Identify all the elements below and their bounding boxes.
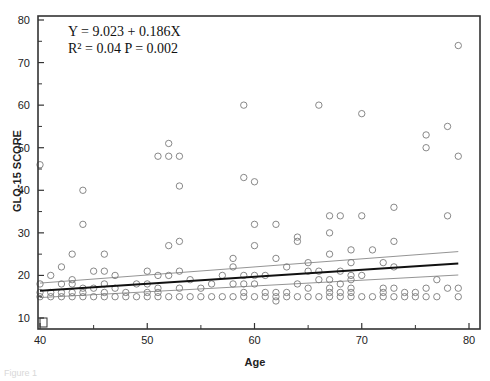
x-axis-title: Age <box>245 356 266 368</box>
data-point <box>444 213 450 219</box>
data-point <box>198 294 204 300</box>
data-point <box>348 294 354 300</box>
data-point <box>230 281 236 287</box>
data-point <box>369 247 375 253</box>
data-point <box>380 259 386 265</box>
data-point <box>241 174 247 180</box>
data-point <box>155 294 161 300</box>
data-point <box>305 285 311 291</box>
data-point <box>348 259 354 265</box>
y-tick-label: 10 <box>18 312 30 324</box>
data-point <box>101 251 107 257</box>
data-point <box>423 145 429 151</box>
data-point <box>80 221 86 227</box>
y-tick-label: 70 <box>18 57 30 69</box>
data-point <box>348 276 354 282</box>
data-point <box>187 294 193 300</box>
data-point <box>133 294 139 300</box>
data-point <box>176 294 182 300</box>
data-point <box>58 264 64 270</box>
data-point <box>166 140 172 146</box>
data-point <box>230 294 236 300</box>
data-point <box>208 281 214 287</box>
data-point <box>444 123 450 129</box>
data-point <box>391 294 397 300</box>
data-point <box>208 294 214 300</box>
data-point <box>262 294 268 300</box>
data-point <box>391 238 397 244</box>
data-point <box>251 179 257 185</box>
data-point <box>230 264 236 270</box>
data-point <box>326 251 332 257</box>
data-point <box>155 153 161 159</box>
data-point <box>423 285 429 291</box>
data-point <box>434 276 440 282</box>
data-point <box>241 102 247 108</box>
y-tick-label: 80 <box>18 14 30 26</box>
data-point <box>412 294 418 300</box>
data-point <box>123 294 129 300</box>
data-point <box>273 298 279 304</box>
scatter-chart: 1020304050607080 4050607080 Y = 9.023 + … <box>0 0 490 381</box>
data-point <box>294 238 300 244</box>
data-point <box>166 294 172 300</box>
x-axis-ticks: 4050607080 <box>34 323 475 346</box>
data-point <box>359 294 365 300</box>
data-point <box>316 102 322 108</box>
data-point <box>359 272 365 278</box>
y-tick-label: 60 <box>18 99 30 111</box>
data-point <box>348 247 354 253</box>
data-point <box>251 294 257 300</box>
data-point <box>359 213 365 219</box>
data-point <box>219 294 225 300</box>
plot-frame <box>38 16 480 329</box>
data-point <box>176 153 182 159</box>
data-point <box>219 272 225 278</box>
data-point <box>112 294 118 300</box>
data-point <box>101 268 107 274</box>
data-point <box>326 213 332 219</box>
data-point <box>273 255 279 261</box>
regression-stats: R² = 0.04 P = 0.002 <box>68 41 178 56</box>
data-point <box>423 132 429 138</box>
data-point <box>455 153 461 159</box>
y-axis-title: GLQ-15 SCORE <box>11 130 23 212</box>
data-point <box>401 294 407 300</box>
data-point <box>69 294 75 300</box>
data-points <box>37 42 462 304</box>
data-point <box>326 230 332 236</box>
data-point <box>305 294 311 300</box>
data-point <box>80 294 86 300</box>
data-point <box>251 221 257 227</box>
data-point <box>380 294 386 300</box>
data-point <box>359 110 365 116</box>
data-point <box>369 294 375 300</box>
data-point <box>455 42 461 48</box>
x-tick-label: 50 <box>141 334 153 346</box>
data-point <box>69 251 75 257</box>
y-tick-label: 20 <box>18 269 30 281</box>
data-point <box>166 153 172 159</box>
data-point <box>423 294 429 300</box>
x-tick-label: 40 <box>34 334 46 346</box>
data-point <box>251 242 257 248</box>
data-point <box>316 294 322 300</box>
data-point <box>337 294 343 300</box>
data-point <box>144 268 150 274</box>
data-point <box>80 187 86 193</box>
data-point <box>455 285 461 291</box>
data-point <box>176 183 182 189</box>
data-point <box>283 294 289 300</box>
data-point <box>391 285 397 291</box>
data-point <box>176 268 182 274</box>
data-point <box>69 281 75 287</box>
data-point <box>166 242 172 248</box>
data-point <box>326 294 332 300</box>
data-point <box>337 213 343 219</box>
data-point <box>230 255 236 261</box>
data-point <box>176 238 182 244</box>
data-point <box>144 294 150 300</box>
data-point <box>155 272 161 278</box>
x-tick-label: 70 <box>356 334 368 346</box>
figure-caption: Figure 1 <box>4 368 37 378</box>
